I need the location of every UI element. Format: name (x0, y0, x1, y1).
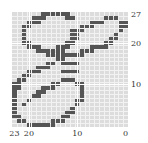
filled-pixel (36, 70, 40, 74)
filled-pixel (61, 119, 65, 123)
filled-pixel (80, 86, 84, 90)
filled-pixel (123, 21, 127, 25)
filled-pixel (32, 21, 36, 25)
filled-pixel (70, 111, 74, 115)
filled-pixel (46, 53, 50, 57)
filled-pixel (80, 53, 84, 57)
filled-pixel (36, 21, 40, 25)
filled-pixel (70, 29, 74, 33)
filled-pixel (109, 37, 113, 41)
filled-pixel (46, 49, 50, 53)
filled-pixel (51, 86, 55, 90)
filled-pixel (51, 49, 55, 53)
filled-pixel (65, 115, 69, 119)
filled-pixel (41, 66, 45, 70)
filled-pixel (80, 94, 84, 98)
filled-pixel (65, 78, 69, 82)
filled-pixel (46, 62, 50, 66)
filled-pixel (61, 57, 65, 61)
filled-pixel (70, 16, 74, 20)
filled-pixel (56, 49, 60, 53)
filled-pixel (80, 90, 84, 94)
filled-pixel (56, 12, 60, 16)
pixel-grid (12, 12, 128, 127)
filled-pixel (46, 86, 50, 90)
filled-pixel (70, 37, 74, 41)
filled-pixel (12, 94, 16, 98)
filled-pixel (65, 70, 69, 74)
filled-pixel (99, 45, 103, 49)
filled-pixel (36, 94, 40, 98)
filled-pixel (22, 119, 26, 123)
filled-pixel (32, 45, 36, 49)
filled-pixel (56, 53, 60, 57)
filled-pixel (36, 123, 40, 127)
filled-pixel (85, 49, 89, 53)
filled-pixel (104, 45, 108, 49)
filled-pixel (61, 53, 65, 57)
filled-pixel (46, 12, 50, 16)
x-tick-label: 23 (9, 129, 19, 138)
filled-pixel (56, 45, 60, 49)
filled-pixel (36, 49, 40, 53)
filled-pixel (65, 111, 69, 115)
filled-pixel (12, 86, 16, 90)
filled-pixel (119, 21, 123, 25)
filled-pixel (36, 66, 40, 70)
filled-pixel (46, 66, 50, 70)
filled-pixel (80, 99, 84, 103)
filled-pixel (90, 25, 94, 29)
filled-pixel (41, 16, 45, 20)
filled-pixel (32, 16, 36, 20)
filled-pixel (22, 37, 26, 41)
filled-pixel (22, 25, 26, 29)
grid-major-vertical (77, 12, 78, 127)
filled-pixel (32, 123, 36, 127)
filled-pixel (70, 62, 74, 66)
filled-pixel (22, 74, 26, 78)
filled-pixel (12, 103, 16, 107)
filled-pixel (61, 49, 65, 53)
filled-pixel (41, 123, 45, 127)
filled-pixel (90, 49, 94, 53)
filled-pixel (65, 16, 69, 20)
filled-pixel (114, 33, 118, 37)
grid-major-horizontal (12, 43, 128, 44)
filled-pixel (41, 12, 45, 16)
filled-pixel (65, 45, 69, 49)
filled-pixel (80, 25, 84, 29)
filled-pixel (51, 62, 55, 66)
filled-pixel (65, 53, 69, 57)
y-tick-label: 10 (131, 79, 141, 88)
filled-pixel (46, 123, 50, 127)
filled-pixel (36, 45, 40, 49)
filled-pixel (65, 12, 69, 16)
filled-pixel (41, 49, 45, 53)
filled-pixel (61, 115, 65, 119)
filled-pixel (41, 86, 45, 90)
filled-pixel (90, 45, 94, 49)
filled-pixel (17, 119, 21, 123)
filled-pixel (17, 78, 21, 82)
filled-pixel (70, 70, 74, 74)
filled-pixel (109, 16, 113, 20)
filled-pixel (22, 33, 26, 37)
filled-pixel (36, 16, 40, 20)
filled-pixel (70, 33, 74, 37)
filled-pixel (12, 111, 16, 115)
filled-pixel (61, 45, 65, 49)
x-tick-label: 0 (123, 129, 128, 138)
filled-pixel (51, 12, 55, 16)
filled-pixel (70, 53, 74, 57)
filled-pixel (32, 94, 36, 98)
filled-pixel (32, 70, 36, 74)
filled-pixel (56, 57, 60, 61)
filled-pixel (80, 29, 84, 33)
filled-pixel (51, 123, 55, 127)
x-tick-label: 20 (24, 129, 34, 138)
filled-pixel (85, 25, 89, 29)
filled-pixel (17, 86, 21, 90)
filled-pixel (17, 115, 21, 119)
filled-pixel (12, 90, 16, 94)
filled-pixel (104, 16, 108, 20)
